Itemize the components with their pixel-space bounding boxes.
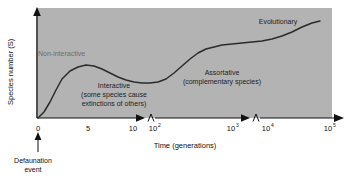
x-axis-title: Time (generations): [154, 141, 217, 150]
annotation-interactive-sub-2: extinctions of others): [82, 100, 147, 108]
chart-figure: Species number (S) Time (generations) 0 …: [0, 0, 354, 178]
x-tick-exponent-1e3: 3: [236, 122, 239, 128]
x-axis-arrow-icon-3: [334, 114, 344, 122]
defaunation-arrow-icon: [35, 132, 42, 140]
annotation-non-interactive: Non-interactive: [38, 50, 85, 57]
y-axis-title: Species number (S): [6, 38, 15, 105]
x-tick-label-0: 0: [36, 124, 40, 133]
x-tick-label-1e5: 10: [324, 124, 332, 133]
annotation-assortative: Assortative: [205, 69, 240, 76]
defaunation-label-line-1: Defaunation: [14, 157, 52, 164]
x-tick-label-10: 10: [129, 124, 137, 133]
chart-svg: Species number (S) Time (generations) 0 …: [0, 0, 354, 178]
defaunation-label-line-2: event: [24, 166, 41, 173]
x-tick-label-1e4: 10: [262, 124, 270, 133]
x-tick-label-1e3: 10: [227, 124, 235, 133]
x-tick-labels: 0 5 10 10 2 10 3 10 4 10 5: [36, 122, 336, 133]
annotation-interactive-sub-1: (some species cause: [81, 91, 147, 99]
x-tick-exponent-1e2: 2: [158, 122, 161, 128]
x-tick-exponent-1e5: 5: [333, 122, 336, 128]
defaunation-event-marker: Defaunation event: [14, 132, 52, 173]
annotation-evolutionary: Evolutionary: [259, 18, 298, 26]
annotation-assortative-sub: (complementary species): [183, 78, 261, 86]
x-tick-label-5: 5: [86, 124, 90, 133]
x-tick-exponent-1e4: 4: [271, 122, 274, 128]
annotation-interactive: Interactive: [98, 82, 130, 89]
x-tick-label-1e2: 10: [149, 124, 157, 133]
